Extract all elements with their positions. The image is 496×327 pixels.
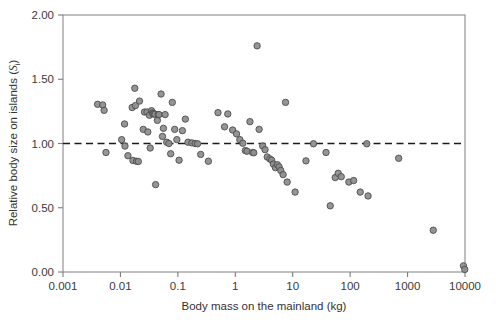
data-point <box>158 91 164 97</box>
x-tick-label: 0.001 <box>49 280 78 292</box>
data-point <box>160 125 166 131</box>
data-point <box>167 151 173 157</box>
data-point <box>125 153 131 159</box>
data-point <box>282 99 288 105</box>
data-point <box>118 136 124 142</box>
figure-scatter-island-body-size: 0.000.501.001.502.00 0.0010.010.11101001… <box>0 0 496 327</box>
data-point <box>430 227 436 233</box>
y-tick-label: 2.00 <box>32 9 54 21</box>
data-point <box>135 158 141 164</box>
data-point <box>256 126 262 132</box>
data-point <box>240 140 246 146</box>
x-axis-ticks: 0.0010.010.1110100100010000 <box>49 272 481 292</box>
data-point <box>251 150 257 156</box>
data-point <box>159 133 165 139</box>
data-point <box>169 99 175 105</box>
y-tick-label: 0.00 <box>32 266 54 278</box>
data-point <box>176 157 182 163</box>
x-tick-label: 0.01 <box>109 280 131 292</box>
data-point <box>205 158 211 164</box>
data-point <box>122 143 128 149</box>
data-point <box>310 141 316 147</box>
y-tick-label: 1.00 <box>32 138 54 150</box>
data-point <box>292 189 298 195</box>
data-point <box>395 155 401 161</box>
data-point <box>233 131 239 137</box>
data-point <box>247 118 253 124</box>
data-point <box>323 149 329 155</box>
data-point <box>101 107 107 113</box>
data-point <box>357 189 363 195</box>
x-tick-label: 10 <box>286 280 299 292</box>
y-axis-title-suffix: ) <box>7 59 19 63</box>
data-point <box>280 171 286 177</box>
data-point <box>338 173 344 179</box>
y-axis-ticks: 0.000.501.001.502.00 <box>32 9 63 278</box>
data-point <box>462 266 468 272</box>
data-point <box>179 127 185 133</box>
y-axis-title: Relative body size on islands (Si) <box>7 59 22 226</box>
x-tick-label: 0.1 <box>170 280 186 292</box>
data-point <box>365 193 371 199</box>
data-point <box>136 98 142 104</box>
data-point <box>364 141 370 147</box>
data-point <box>156 111 162 117</box>
data-point <box>350 177 356 183</box>
x-tick-label: 100 <box>341 280 360 292</box>
data-point <box>182 116 188 122</box>
x-axis-title: Body mass on the mainland (kg) <box>182 300 347 312</box>
scatter-plot-canvas: 0.000.501.001.502.00 0.0010.010.11101001… <box>0 0 496 327</box>
data-points-group <box>94 43 468 273</box>
data-point <box>152 181 158 187</box>
data-point <box>145 129 151 135</box>
data-point <box>166 140 172 146</box>
data-point <box>194 141 200 147</box>
data-point <box>225 111 231 117</box>
data-point <box>221 124 227 130</box>
data-point <box>327 203 333 209</box>
y-tick-label: 1.50 <box>32 73 54 85</box>
data-point <box>103 149 109 155</box>
data-point <box>303 158 309 164</box>
x-tick-label: 1 <box>232 280 238 292</box>
data-point <box>215 109 221 115</box>
data-point <box>174 136 180 142</box>
svg-text:Relative body size on islands: Relative body size on islands (Si) <box>7 59 22 226</box>
data-point <box>162 111 168 117</box>
x-tick-label: 10000 <box>449 280 481 292</box>
y-axis-title-prefix: Relative body size on islands ( <box>7 71 19 226</box>
caption-sliver <box>4 323 474 327</box>
y-tick-label: 0.50 <box>32 202 54 214</box>
data-point <box>147 145 153 151</box>
data-point <box>198 151 204 157</box>
x-tick-label: 1000 <box>395 280 421 292</box>
data-point <box>132 85 138 91</box>
data-point <box>284 179 290 185</box>
data-point <box>171 126 177 132</box>
data-point <box>121 121 127 127</box>
data-point <box>254 43 260 49</box>
data-point <box>262 146 268 152</box>
